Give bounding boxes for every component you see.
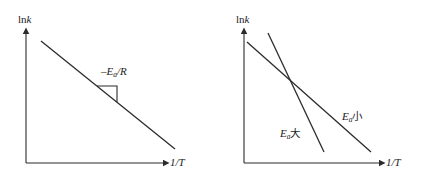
x-axis-label-left: 1/T — [170, 157, 185, 168]
y-axis-label-text: ln — [236, 13, 245, 25]
x-axis-label-var: T — [395, 156, 401, 168]
arrhenius-figure: lnk 1/T –Ea/R — [0, 0, 428, 189]
ea-large-word: 大 — [290, 127, 300, 139]
slope-annotation-label: –Ea/R — [101, 66, 127, 77]
x-axis-label-text: 1/ — [386, 156, 395, 168]
line-ea-small — [247, 42, 371, 152]
y-axis-label-left: lnk — [18, 14, 31, 25]
arrhenius-line — [41, 41, 175, 149]
x-axis-label-text: 1/ — [170, 156, 179, 168]
ea-large-var: E — [280, 127, 287, 139]
slope-gas-constant: R — [120, 65, 127, 77]
curve-label-ea-large: Ea大 — [280, 128, 300, 139]
y-axis-label-var: k — [245, 13, 250, 25]
ea-small-word: 小 — [352, 110, 362, 122]
slope-energy-subscript: a — [113, 70, 117, 79]
chart-panel-left: lnk 1/T –Ea/R — [0, 0, 214, 189]
ea-large-subscript: a — [287, 132, 291, 141]
y-axis-label-right: lnk — [236, 14, 249, 25]
y-axis-label-var: k — [27, 13, 32, 25]
x-axis-label-right: 1/T — [386, 157, 401, 168]
curve-label-ea-small: Ea小 — [342, 111, 362, 122]
ea-small-var: E — [342, 110, 349, 122]
chart-panel-right: lnk 1/T Ea大 Ea小 — [214, 0, 428, 189]
ea-small-subscript: a — [349, 115, 353, 124]
y-axis-label-text: ln — [18, 13, 27, 25]
x-axis-label-var: T — [179, 156, 185, 168]
